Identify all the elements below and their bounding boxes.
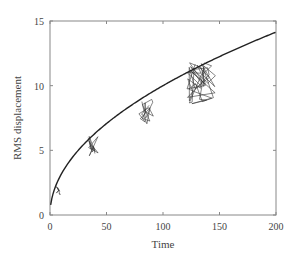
y-tick-label: 15 [34,16,44,27]
y-tick-label: 10 [34,81,44,92]
x-tick-label: 0 [48,221,53,232]
x-tick-label: 50 [102,221,112,232]
plot-border [50,21,276,215]
y-tick-label: 5 [39,145,44,156]
y-axis-label: RMS displacement [11,76,23,160]
trajectory-cluster [187,63,215,104]
sqrt-curve [51,32,276,205]
x-axis-label: Time [152,238,175,250]
trajectory-clusters [56,63,215,195]
rms-displacement-chart: 050100150200051015 Time RMS displacement [0,0,300,261]
trajectory-cluster [139,99,153,123]
x-tick-label: 200 [269,221,284,232]
x-tick-label: 150 [212,221,227,232]
x-tick-label: 100 [156,221,171,232]
trajectory-cluster [56,187,60,195]
plot-frame [50,21,276,215]
chart-canvas: 050100150200051015 Time RMS displacement [0,0,300,261]
y-tick-label: 0 [39,210,44,221]
axis-ticks: 050100150200051015 [34,16,284,232]
